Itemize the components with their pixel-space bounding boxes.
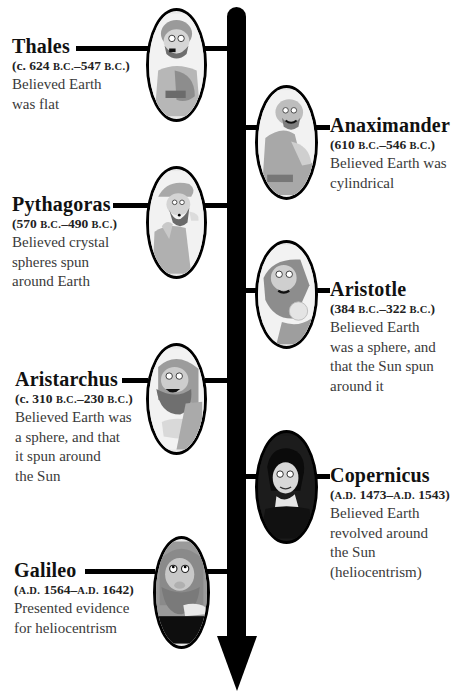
turbaned-man-icon: [149, 169, 204, 276]
entry-description: Presented evidence for heliocentrism: [14, 599, 159, 638]
timeline-entry-pythagoras: Pythagoras (570 B.C.–490 B.C.) Believed …: [12, 193, 152, 292]
entry-name: Aristarchus: [15, 368, 155, 390]
timeline-entry-anaximander: Anaximander (610 B.C.–546 B.C.) Believed…: [330, 114, 466, 193]
aristarchus-portrait: [146, 343, 207, 455]
entry-description: Believed Earth revolved around the Sun (…: [330, 504, 466, 582]
entry-description: Believed crystal spheres spun around Ear…: [12, 233, 152, 292]
entry-dates: (c. 624 B.C.–547 B.C.): [12, 57, 152, 75]
copernicus-name-connector: [316, 474, 330, 479]
entry-description: Believed Earth was a sphere, and that th…: [330, 318, 466, 396]
entry-dates: (570 B.C.–490 B.C.): [12, 215, 152, 233]
geocentric-to-heliocentric-timeline: Thales (c. 624 B.C.–547 B.C.) Believed E…: [0, 0, 466, 692]
entry-name: Copernicus: [330, 464, 466, 486]
timeline-entry-galileo: Galileo (A.D. 1564–A.D. 1642) Presented …: [14, 559, 159, 638]
aristotle-name-connector: [316, 288, 330, 293]
timeline-arrowhead-icon: [217, 636, 257, 691]
anaximander-portrait: [255, 85, 318, 200]
galileo-timeline-connector: [207, 569, 229, 574]
timeline-entry-thales: Thales (c. 624 B.C.–547 B.C.) Believed E…: [12, 35, 152, 114]
laughing-man-icon: [258, 88, 315, 197]
timeline-entry-copernicus: Copernicus (A.D. 1473–A.D. 1543) Believe…: [330, 464, 466, 582]
entry-description: Believed Earth was flat: [12, 75, 152, 114]
entry-dates: (610 B.C.–546 B.C.): [330, 136, 466, 154]
timeline-arrow-shaft: [227, 7, 246, 639]
dark-haired-man-icon: [258, 433, 315, 541]
pythagoras-timeline-connector: [205, 203, 229, 208]
entry-dates: (A.D. 1564–A.D. 1642): [14, 581, 159, 599]
entry-description: Believed Earth was a sphere, and that it…: [15, 408, 155, 486]
bearded-man-icon: [156, 539, 207, 646]
entry-name: Anaximander: [330, 114, 466, 136]
aristarchus-timeline-connector: [205, 378, 229, 383]
thales-portrait: [146, 8, 207, 122]
entry-description: Believed Earth was cylindrical: [330, 154, 466, 193]
bearded-man-icon: [258, 243, 315, 346]
entry-name: Aristotle: [330, 278, 466, 300]
bearded-man-icon: [149, 11, 204, 119]
aristotle-portrait: [255, 240, 318, 349]
thales-timeline-connector: [205, 46, 229, 51]
galileo-portrait: [153, 536, 210, 649]
entry-dates: (A.D. 1473–A.D. 1543): [330, 486, 466, 504]
entry-dates: (384 B.C.–322 B.C.): [330, 300, 466, 318]
entry-name: Thales: [12, 35, 152, 57]
timeline-entry-aristarchus: Aristarchus (c. 310 B.C.–230 B.C.) Belie…: [15, 368, 155, 486]
pythagoras-portrait: [146, 166, 207, 279]
bearded-man-icon: [149, 346, 204, 452]
entry-name: Pythagoras: [12, 193, 152, 215]
anaximander-name-connector: [316, 125, 330, 130]
copernicus-portrait: [255, 430, 318, 544]
timeline-entry-aristotle: Aristotle (384 B.C.–322 B.C.) Believed E…: [330, 278, 466, 396]
entry-name: Galileo: [14, 559, 159, 581]
entry-dates: (c. 310 B.C.–230 B.C.): [15, 390, 155, 408]
